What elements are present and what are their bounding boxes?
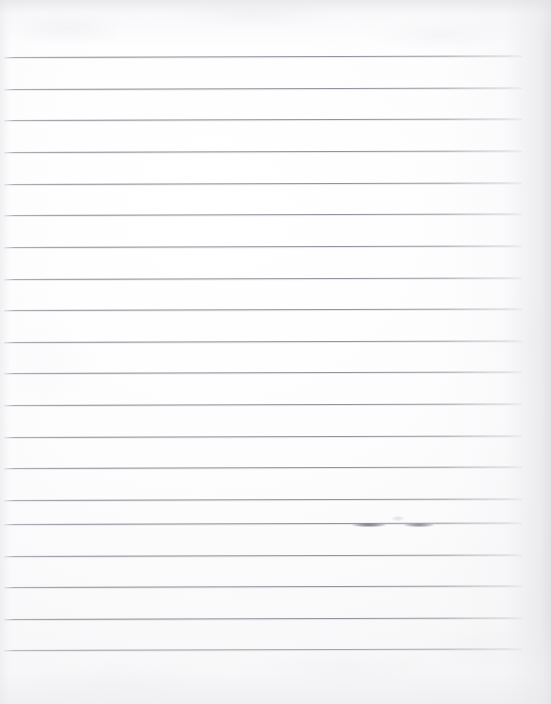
paper-surface: [0, 0, 551, 704]
scanned-page: [0, 0, 551, 704]
